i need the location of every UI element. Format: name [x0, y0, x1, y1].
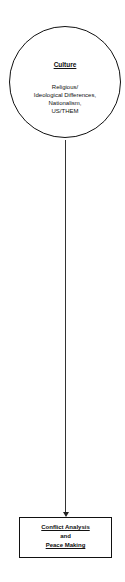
culture-node-body: Religious/ Ideological Differences, Nati… — [12, 83, 118, 115]
culture-line-3: Nationalism, — [12, 99, 118, 107]
culture-line-2: Ideological Differences, — [12, 91, 118, 99]
culture-node-title: Culture — [10, 61, 120, 68]
culture-node: Culture Religious/ Ideological Differenc… — [9, 26, 121, 138]
box-line-2: and — [20, 532, 111, 541]
culture-line-4: US/THEM — [12, 107, 118, 115]
box-line-3: Peace Making — [20, 541, 111, 550]
connector-line — [65, 140, 66, 514]
culture-line-1: Religious/ — [12, 83, 118, 91]
conflict-analysis-node: Conflict Analysis and Peace Making — [19, 517, 112, 558]
box-line-1: Conflict Analysis — [20, 523, 111, 532]
